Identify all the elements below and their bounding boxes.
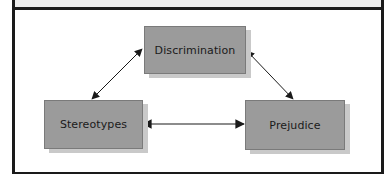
node-discrimination: Discrimination [144,26,246,74]
node-label: Stereotypes [60,118,127,131]
arrow-discrimination-stereotypes [92,49,142,99]
node-stereotypes: Stereotypes [44,100,143,149]
node-prejudice: Prejudice [245,100,345,150]
arrow-discrimination-prejudice [247,51,293,99]
node-label: Prejudice [269,119,320,132]
node-label: Discrimination [155,44,236,57]
